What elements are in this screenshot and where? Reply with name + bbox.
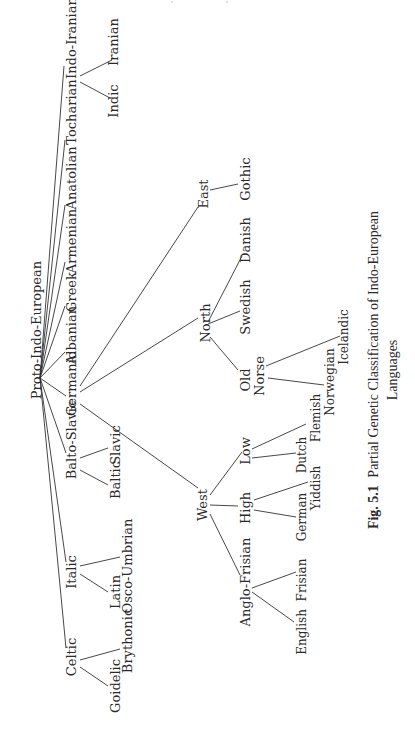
node-west: West bbox=[195, 488, 210, 521]
node-dutch: Dutch bbox=[295, 436, 309, 473]
node-flemish: Flemish bbox=[309, 394, 323, 443]
figure-caption: Fig. 5.1 Partial Genetic Classification … bbox=[366, 211, 400, 529]
node-tocharian: Tocharian bbox=[64, 79, 79, 145]
node-gothic: Gothic bbox=[238, 157, 253, 200]
node-norse: Norse bbox=[252, 356, 267, 396]
node-frisian: Frisian bbox=[295, 558, 309, 601]
caption-line-1: Fig. 5.1 Partial Genetic Classification … bbox=[366, 211, 381, 529]
caption-number: Fig. 5.1 bbox=[366, 485, 381, 529]
node-danish: Danish bbox=[238, 217, 253, 263]
node-celtic: Celtic bbox=[64, 638, 79, 676]
edge-italic-latin bbox=[80, 574, 108, 592]
node-slavic: Slavic bbox=[108, 425, 123, 465]
node-anglo-frisian: Anglo-Frisian bbox=[238, 537, 253, 627]
node-armenian: Armenian bbox=[64, 208, 79, 274]
node-english: English bbox=[295, 609, 309, 655]
caption-text: Partial Genetic Classification of Indo-E… bbox=[366, 211, 381, 478]
node-indo-iranian: Indo-Iranian bbox=[64, 0, 79, 79]
edge-pie-italic bbox=[40, 378, 66, 562]
edge-italic-osco-umbrian bbox=[80, 557, 120, 566]
caption-line-2: Languages bbox=[385, 340, 400, 401]
edge-anglo-frisian-frisian bbox=[252, 572, 296, 588]
node-high: High bbox=[238, 491, 253, 524]
edge-balto-slavic-slavic bbox=[80, 448, 108, 458]
edge-west-high bbox=[210, 505, 238, 506]
node-swedish: Swedish bbox=[238, 279, 253, 335]
edge-west-anglo-frisian bbox=[210, 514, 240, 575]
edge-germanic-east bbox=[80, 207, 198, 386]
edge-high-german bbox=[254, 510, 296, 517]
edge-balto-slavic-baltic bbox=[80, 470, 108, 485]
node-icelandic: Icelandic bbox=[337, 309, 351, 365]
edge-germanic-west bbox=[80, 404, 198, 488]
edge-celtic-brythonic bbox=[80, 649, 120, 660]
edge-pie-celtic bbox=[40, 378, 66, 648]
edge-north-old-norse bbox=[210, 337, 238, 370]
node-old: Old bbox=[238, 368, 253, 391]
edge-norse-norwegian bbox=[268, 378, 324, 385]
edge-anglo-frisian-english bbox=[252, 592, 294, 622]
edge-celtic-goidelic bbox=[80, 667, 108, 686]
edge-germanic-north bbox=[80, 318, 198, 392]
node-indic: Indic bbox=[106, 84, 121, 117]
node-iranian: Iranian bbox=[106, 18, 121, 66]
language-tree-diagram: Proto-Indo-European Indo-Iranian Tochari… bbox=[0, 0, 415, 732]
node-anatolian: Anatolian bbox=[64, 146, 79, 211]
node-german: German bbox=[295, 492, 309, 541]
node-proto-indo-european: Proto-Indo-European bbox=[29, 260, 44, 399]
edge-low-dutch bbox=[252, 453, 296, 458]
scan-artifacts bbox=[171, 1, 228, 3]
tree-labels: Proto-Indo-European Indo-Iranian Tochari… bbox=[29, 0, 351, 713]
node-balto-slavic: Balto-Slavic bbox=[64, 401, 79, 480]
node-baltic: Baltic bbox=[108, 461, 123, 499]
node-italic: Italic bbox=[64, 555, 79, 589]
speck bbox=[171, 1, 173, 3]
speck bbox=[226, 1, 228, 3]
node-north: North bbox=[198, 303, 213, 343]
node-goidelic: Goidelic bbox=[108, 659, 123, 713]
node-norwegian: Norwegian bbox=[323, 348, 337, 416]
edge-east-gothic bbox=[210, 184, 238, 190]
node-yiddish: Yiddish bbox=[309, 465, 323, 511]
node-latin: Latin bbox=[108, 574, 123, 609]
node-low: Low bbox=[238, 437, 253, 465]
node-east: East bbox=[196, 179, 211, 209]
